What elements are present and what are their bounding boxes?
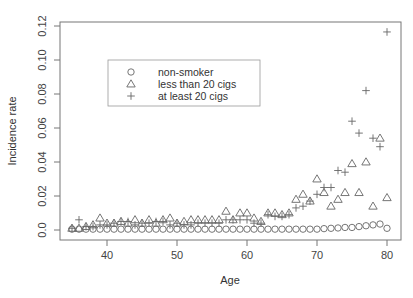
plus-marker [327,184,335,192]
circle-marker [356,223,362,229]
x-tick-label: 70 [311,249,323,261]
y-axis-title: Incidence rate [6,96,18,165]
y-tick-label: 0.02 [36,185,48,206]
scatter-chart: 4050607080 0.00.020.040.060.080.100.12 A… [0,0,413,298]
y-axis: 0.00.020.040.060.080.100.12 [36,15,60,237]
x-tick-label: 50 [171,249,183,261]
triangle-marker [376,134,384,141]
plus-marker [292,204,300,212]
y-tick-label: 0.0 [36,222,48,237]
triangle-marker [369,202,377,209]
triangle-marker [355,188,363,195]
triangle-marker [327,202,335,209]
triangle-marker [348,160,356,167]
triangle-marker [299,190,307,197]
series-less-than-20-cigs [68,134,391,231]
x-axis-title: Age [220,274,240,286]
y-tick-label: 0.08 [36,83,48,104]
y-tick-label: 0.12 [36,15,48,36]
y-tick-label: 0.04 [36,151,48,172]
circle-marker [307,226,313,232]
series-at-least-20-cigs [68,28,391,232]
triangle-marker [383,194,391,201]
legend-label: less than 20 cigs [158,78,236,90]
legend-label: non-smoker [158,66,214,78]
triangle-marker [341,188,349,195]
circle-marker [363,223,369,229]
plus-marker [320,184,328,192]
plus-marker [362,87,370,95]
y-tick-label: 0.10 [36,49,48,70]
triangle-marker [96,214,104,221]
plus-marker [376,143,384,151]
circle-marker [321,225,327,231]
circle-marker [293,226,299,232]
plus-marker [334,167,342,175]
y-tick-label: 0.06 [36,117,48,138]
plus-marker [278,213,286,221]
circle-marker [286,226,292,232]
triangle-marker [362,158,370,165]
plus-marker [383,28,391,36]
plus-marker [159,218,167,226]
circle-marker [230,226,236,232]
circle-marker [300,226,306,232]
plus-marker [313,191,321,199]
circle-marker [153,226,159,232]
plus-marker [341,168,349,176]
circle-marker [384,225,390,231]
plus-marker [348,117,356,125]
circle-marker [314,226,320,232]
x-axis: 4050607080 [101,240,393,261]
plot-frame [60,22,401,240]
circle-marker [223,226,229,232]
plus-marker [264,211,272,219]
triangle-marker [334,195,342,202]
x-tick-label: 80 [381,249,393,261]
triangle-marker [313,175,321,182]
triangle-marker [222,207,230,214]
triangle-marker [166,214,174,221]
circle-marker [377,221,383,227]
circle-marker [342,224,348,230]
circle-marker [279,226,285,232]
legend-label: at least 20 cigs [158,90,228,102]
x-tick-label: 60 [241,249,253,261]
circle-marker [370,222,376,228]
circle-marker [328,225,334,231]
plus-marker [243,216,251,224]
circle-marker [125,226,131,232]
circle-marker [349,224,355,230]
plus-marker [250,219,258,227]
circle-marker [335,225,341,231]
legend: non-smokerless than 20 cigsat least 20 c… [108,60,260,106]
plus-marker [355,129,363,137]
circle-marker [265,226,271,232]
circle-marker [160,226,166,232]
plus-marker [75,216,83,224]
x-tick-label: 40 [101,249,113,261]
data-points [68,28,391,232]
circle-marker [237,226,243,232]
circle-marker [272,226,278,232]
circle-marker [118,226,124,232]
circle-marker [244,226,250,232]
